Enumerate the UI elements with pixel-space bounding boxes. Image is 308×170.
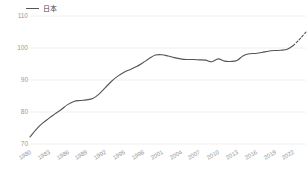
plot-svg	[30, 16, 306, 144]
gridlines	[30, 16, 306, 144]
series-line-japan	[30, 45, 293, 137]
plot-area	[30, 16, 306, 144]
x-tick-label: 2022	[281, 149, 296, 161]
series-line-japan-forecast	[293, 32, 306, 45]
legend-label-japan: 日本	[43, 5, 57, 12]
x-tick-label: 2001	[149, 149, 164, 161]
x-tick-label: 2004	[168, 149, 183, 161]
y-tick-label: 80	[2, 109, 28, 116]
x-tick-label: 1989	[74, 149, 89, 161]
x-tick-label: 1995	[112, 149, 127, 161]
y-axis: 708090100110	[0, 16, 28, 144]
x-tick-label: 1986	[55, 149, 70, 161]
x-tick-label: 1980	[18, 149, 33, 161]
x-tick-label: 1992	[93, 149, 108, 161]
line-chart: 日本 708090100110 198019831986198919921995…	[0, 0, 308, 170]
x-tick-label: 2016	[243, 149, 258, 161]
x-axis: 1980198319861989199219951998200120042007…	[30, 145, 306, 170]
chart-legend: 日本	[26, 2, 57, 14]
x-tick-label: 2019	[262, 149, 277, 161]
x-tick-label: 2010	[206, 149, 221, 161]
legend-line-swatch-japan	[26, 8, 39, 9]
x-tick-label: 2013	[225, 149, 240, 161]
y-tick-label: 110	[2, 13, 28, 20]
x-tick-label: 1998	[131, 149, 146, 161]
x-tick-label: 1983	[36, 149, 51, 161]
x-tick-label: 2007	[187, 149, 202, 161]
y-tick-label: 70	[2, 141, 28, 148]
y-tick-label: 90	[2, 77, 28, 84]
y-tick-label: 100	[2, 45, 28, 52]
